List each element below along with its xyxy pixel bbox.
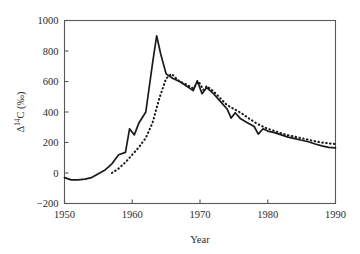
x-tick-label: 1950: [54, 209, 75, 220]
x-axis-title: Year: [190, 234, 210, 245]
x-tick-label: 1980: [257, 209, 278, 220]
x-tick-label: 1990: [325, 209, 346, 220]
x-tick-label: 1970: [190, 209, 211, 220]
y-axis-title: Δ14C (‰): [14, 91, 27, 133]
y-tick-label: −200: [37, 198, 59, 209]
y-tick-label: 200: [43, 137, 59, 148]
chart-figure: −20002004006008001000 195019601970198019…: [0, 0, 360, 254]
y-tick-label: 1000: [38, 15, 59, 26]
bomb-carbon-line-chart: −20002004006008001000 195019601970198019…: [0, 0, 360, 254]
y-tick-label: 600: [43, 76, 59, 87]
y-tick-label: 400: [43, 107, 59, 118]
y-tick-label: 800: [43, 46, 59, 57]
x-tick-label: 1960: [122, 209, 143, 220]
svg-text:Δ14C (‰): Δ14C (‰): [14, 91, 27, 133]
y-axis-title-tail: C (‰): [15, 91, 27, 119]
y-tick-label: 0: [53, 168, 58, 179]
